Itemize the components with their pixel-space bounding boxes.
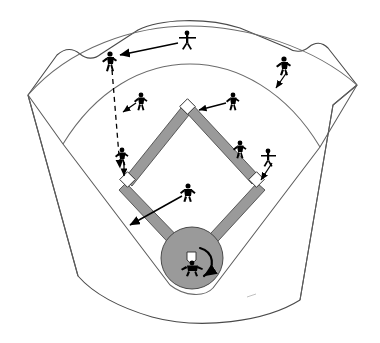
baseball-field-diagram — [0, 0, 380, 343]
field-svg-canvas — [0, 0, 380, 343]
